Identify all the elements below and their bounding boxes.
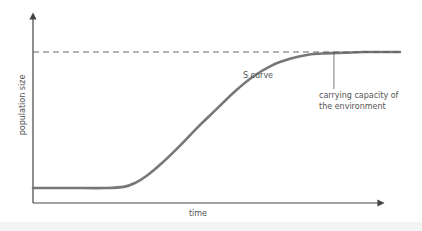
y-axis-label: population size	[18, 75, 27, 136]
s-curve-chart: time population size S curve carrying ca…	[0, 0, 422, 231]
carrying-capacity-label-line-1: carrying capacity of	[319, 91, 399, 100]
s-curve-line	[33, 52, 400, 188]
carrying-capacity-label-line-2: the environment	[319, 102, 386, 111]
s-curve-label: S curve	[243, 71, 273, 80]
bottom-strip	[0, 222, 422, 231]
x-axis-label: time	[189, 209, 207, 218]
